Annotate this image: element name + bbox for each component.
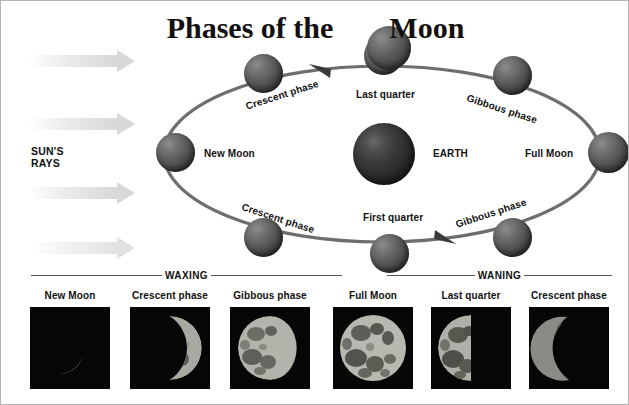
moon-first-quarter — [370, 234, 409, 273]
orbit-label-first-quarter: First quarter — [363, 212, 423, 223]
waning-band: WANING — [387, 269, 612, 281]
orbit-label-last-quarter: Last quarter — [356, 89, 415, 100]
photo-caption: Crescent phase — [120, 289, 220, 303]
photo-full-moon — [333, 307, 413, 389]
photo-caption: Full Moon — [323, 289, 423, 303]
photo-gibbous-waxing — [230, 307, 310, 389]
moon-full-moon — [588, 132, 629, 173]
photo-caption: New Moon — [20, 289, 120, 303]
photo-new-moon — [30, 307, 110, 389]
photo-cell-crescent-waning: Crescent phase — [519, 289, 619, 389]
moon-new-moon — [156, 133, 195, 172]
waning-rule-left — [387, 275, 475, 276]
moon-gibbous-waxing — [493, 218, 532, 257]
photo-cell-crescent-waxing: Crescent phase — [120, 289, 220, 389]
photo-cell-full-moon: Full Moon — [323, 289, 423, 389]
moon-gibbous-waning — [493, 56, 532, 95]
waxing-rule-right — [211, 275, 342, 276]
moon-phases-figure: Phases of theMoon SUN'S RAYS EARTH — [0, 0, 629, 405]
earth-sphere — [353, 123, 415, 185]
photo-caption: Crescent phase — [519, 289, 619, 303]
photo-cell-gibbous-waxing: Gibbous phase — [220, 289, 320, 389]
waning-label: WANING — [475, 270, 525, 281]
photo-crescent-waxing — [130, 307, 210, 389]
page-title-part1: Phases of the — [167, 11, 334, 44]
photo-last-quarter — [431, 307, 511, 389]
orbit-label-full-moon: Full Moon — [525, 148, 573, 159]
orbit-label-new-moon: New Moon — [204, 148, 255, 159]
orbit-label-earth: EARTH — [433, 148, 468, 159]
waxing-label: WAXING — [162, 270, 211, 281]
photo-crescent-waning — [529, 307, 609, 389]
page-title-part2: Moon — [389, 11, 464, 44]
photo-caption: Gibbous phase — [220, 289, 320, 303]
page-title: Phases of theMoon — [1, 11, 629, 45]
waxing-rule-left — [31, 275, 162, 276]
moon-photo-strip: New Moon Crescent phase — [1, 289, 629, 401]
waning-rule-right — [524, 275, 612, 276]
photo-cell-new-moon: New Moon — [20, 289, 120, 389]
moon-crescent-waxing — [244, 54, 283, 93]
photo-cell-last-quarter: Last quarter — [421, 289, 521, 389]
waxing-band: WAXING — [31, 269, 342, 281]
photo-caption: Last quarter — [421, 289, 521, 303]
